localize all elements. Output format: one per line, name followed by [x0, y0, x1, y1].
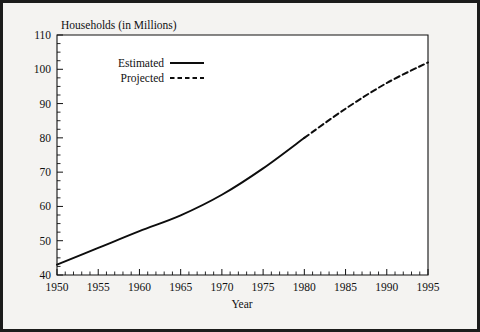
x-tick-label: 1965: [169, 281, 192, 293]
y-tick-label: 90: [40, 98, 52, 110]
x-tick-label: 1990: [375, 281, 398, 293]
x-tick-label: 1970: [210, 281, 233, 293]
y-tick-label: 40: [40, 269, 52, 281]
x-tick-label: 1950: [46, 281, 69, 293]
y-tick-label: 70: [40, 166, 52, 178]
x-tick-label: 1975: [252, 281, 275, 293]
plot-area-background: [57, 35, 428, 275]
y-axis-tick-labels: 405060708090100110: [34, 29, 52, 281]
y-axis-title: Households (in Millions): [61, 19, 177, 32]
legend-label-projected: Projected: [121, 72, 165, 85]
x-axis-title: Year: [231, 298, 252, 310]
line-chart-figure: 405060708090100110 195019551960196519701…: [3, 3, 477, 329]
x-axis-tick-labels: 1950195519601965197019751980198519901995: [46, 281, 440, 293]
y-tick-label: 100: [34, 63, 52, 75]
x-tick-label: 1995: [417, 281, 440, 293]
x-tick-label: 1985: [334, 281, 357, 293]
y-tick-label: 50: [40, 235, 52, 247]
x-tick-label: 1960: [128, 281, 151, 293]
chart-screenshot: 405060708090100110 195019551960196519701…: [0, 0, 480, 332]
y-tick-label: 60: [40, 200, 52, 212]
y-tick-label: 110: [34, 29, 51, 41]
x-tick-label: 1980: [293, 281, 316, 293]
legend-label-estimated: Estimated: [118, 57, 164, 69]
y-tick-label: 80: [40, 132, 52, 144]
x-tick-label: 1955: [87, 281, 110, 293]
figure-background: 405060708090100110 195019551960196519701…: [3, 3, 477, 329]
